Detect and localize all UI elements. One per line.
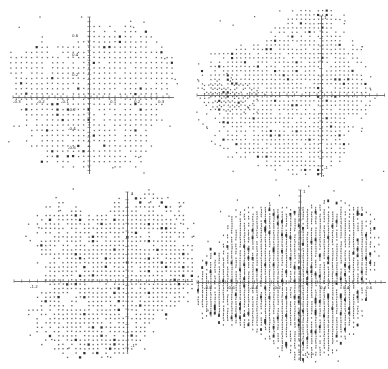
tick-label-top-left--0.3: -0.3	[13, 100, 21, 104]
tick-label-top-left-0.3: 0.3	[158, 100, 164, 104]
tick-label-top-left-0.2: 0.2	[134, 100, 140, 104]
tick-label-top-left-0.4: 0.4	[72, 53, 78, 57]
tick-label-bottom-right--0.4: -0.4	[250, 286, 258, 290]
plot-top-right	[194, 0, 388, 185]
tick-label-top-left--0.4: -0.4	[68, 127, 76, 131]
tick-label-bottom-right-0.2: 0.2	[320, 286, 326, 290]
tick-label-bottom-left-1: 1	[131, 192, 134, 196]
tick-label-bottom-right--1: -1	[303, 353, 307, 357]
tick-label-bottom-right--0.8: -0.8	[204, 286, 212, 290]
tick-label-top-left--0.2: -0.2	[37, 100, 45, 104]
plot-bottom-right	[194, 185, 388, 369]
tick-label-top-left--0.2: -0.2	[68, 108, 76, 112]
tick-label-top-left-0.1: 0.1	[110, 100, 116, 104]
tick-label-top-left-0.2: 0.2	[72, 73, 78, 77]
plot-top-left	[0, 0, 194, 185]
tick-label-top-left--0.6: -0.6	[68, 146, 76, 150]
tick-label-bottom-right-0.4: 0.4	[343, 286, 349, 290]
tick-label-top-left-0.6: 0.6	[72, 34, 78, 38]
tick-label-bottom-left--1.2: -1.2	[30, 285, 38, 289]
tick-label-top-left--0.1: -0.1	[61, 100, 69, 104]
tick-label-top-right-1: 1	[324, 16, 327, 20]
tick-label-top-right--1: -1	[324, 166, 328, 170]
plot-bottom-left	[0, 185, 194, 369]
figure-canvas-container: -0.3-0.2-0.10.10.20.30.60.40.2-0.2-0.4-0…	[0, 0, 388, 369]
tick-label-bottom-right-1: 1	[303, 190, 306, 194]
tick-label-bottom-left--1: -1	[131, 344, 135, 348]
tick-label-bottom-right--0.2: -0.2	[273, 286, 281, 290]
tick-label-bottom-right-0.6: 0.6	[366, 286, 372, 290]
tick-label-bottom-right--0.6: -0.6	[227, 286, 235, 290]
